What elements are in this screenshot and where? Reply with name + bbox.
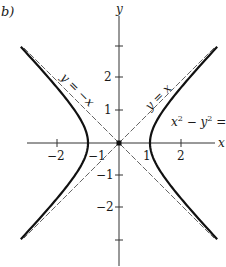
x-tick-label-neg2: −2: [47, 149, 65, 163]
y-tick-label-neg2: −2: [96, 200, 114, 214]
y-tick-label-2: 2: [104, 70, 112, 84]
hyperbola-diagram: b) x y −2 −1 1 2 2 1 −1 −2 y = −x y = x …: [0, 0, 226, 267]
origin-point: [117, 141, 122, 146]
panel-label: b): [1, 4, 14, 19]
x-tick-label-2: 2: [177, 149, 185, 163]
curve-equation-label: x2 − y2 = 1: [171, 114, 226, 129]
y-tick-label-1: 1: [104, 103, 112, 117]
y-axis-label: y: [115, 2, 123, 16]
x-tick-label-neg1: −1: [88, 149, 106, 163]
x-axis-label: x: [218, 136, 225, 150]
asymptote-label-neg: y = −x: [57, 70, 97, 110]
x-tick-label-1: 1: [143, 149, 151, 163]
y-tick-label-neg1: −1: [96, 168, 114, 182]
asymptote-label-pos: y = x: [142, 81, 175, 114]
